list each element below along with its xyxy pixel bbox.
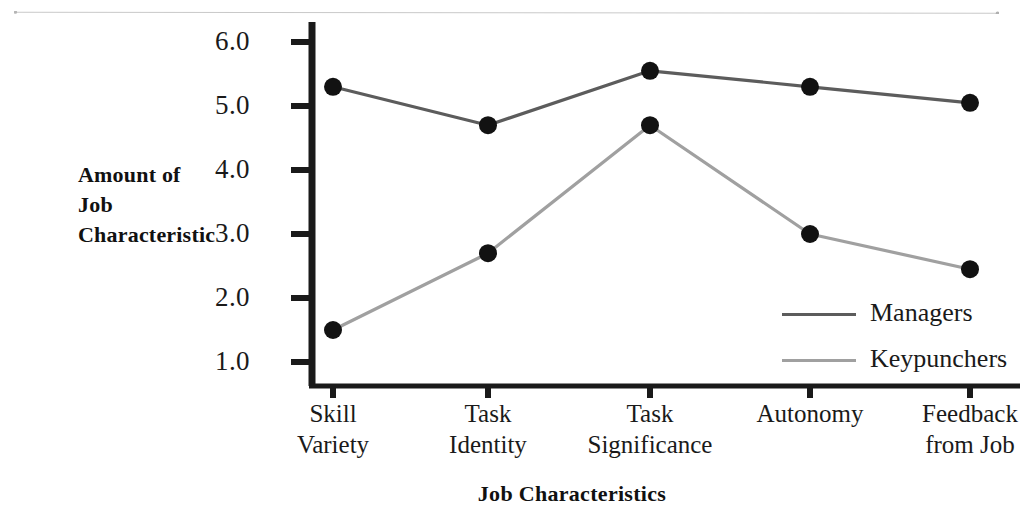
data-point-keypunchers-autonomy: [801, 225, 819, 243]
x-axis-title: Job Characteristics: [0, 481, 1024, 507]
x-axis-title-text: Job Characteristics: [478, 481, 666, 507]
y-tick-label-2: 2.0: [178, 284, 250, 311]
chart-legend: Managers Keypunchers: [782, 293, 1022, 385]
y-tick-label-5: 5.0: [178, 92, 250, 119]
x-axis-label-feedback-from-job-line-1: Feedback: [875, 398, 1024, 429]
data-point-managers-task-identity: [479, 116, 497, 134]
legend-swatch-keypunchers: [782, 359, 856, 362]
legend-swatch-managers: [782, 313, 856, 316]
legend-label-keypunchers: Keypunchers: [870, 339, 1007, 379]
x-axis-label-task-significance-line-2: Significance: [555, 429, 745, 460]
data-point-managers-skill-variety: [324, 78, 342, 96]
y-axis-title-line-1: Amount of: [78, 160, 243, 190]
data-point-managers-autonomy: [801, 78, 819, 96]
y-tick-label-1: 1.0: [178, 348, 250, 375]
figure-job-characteristics: 6.0 5.0 4.0 3.0 2.0 1.0 Amount of Job Ch…: [0, 0, 1024, 508]
data-point-keypunchers-task-identity: [479, 244, 497, 262]
data-point-keypunchers-task-significance: [641, 116, 659, 134]
legend-item-keypunchers: Keypunchers: [782, 339, 1022, 385]
legend-item-managers: Managers: [782, 293, 1022, 339]
legend-label-managers: Managers: [870, 293, 973, 333]
data-point-managers-task-significance: [641, 62, 659, 80]
y-axis-title-line-2: Job: [78, 190, 243, 220]
y-axis-title-line-3: Characteristic: [78, 220, 243, 250]
x-axis-label-feedback-from-job-line-2: from Job: [875, 429, 1024, 460]
data-point-keypunchers-feedback-from-job: [961, 260, 979, 278]
data-point-managers-feedback-from-job: [961, 94, 979, 112]
x-axis-label-feedback-from-job: Feedback from Job: [875, 398, 1024, 460]
data-point-keypunchers-skill-variety: [324, 321, 342, 339]
y-axis-title: Amount of Job Characteristic: [78, 160, 243, 250]
y-tick-label-6: 6.0: [178, 28, 250, 55]
